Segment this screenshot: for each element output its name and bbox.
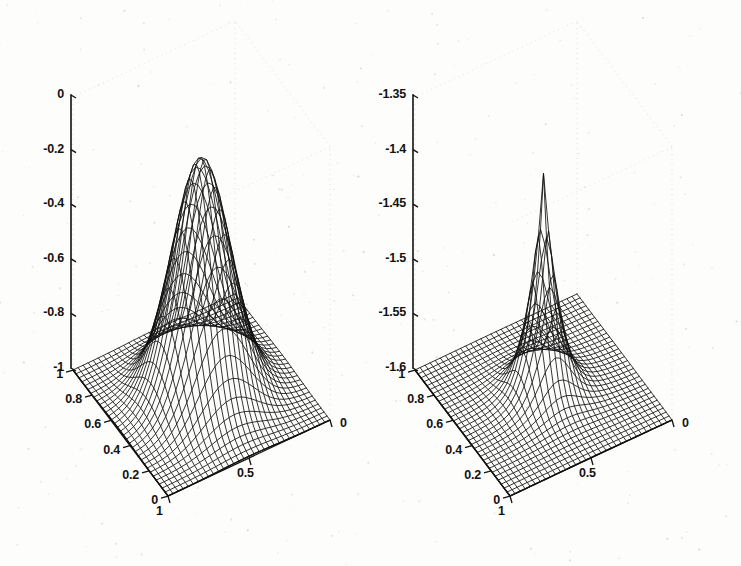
y-tick-label: 0 (468, 494, 500, 507)
right-surface-plot: -1.35-1.4-1.45-1.5-1.55-1.610.80.60.40.2… (371, 0, 741, 566)
z-tick-label: -0.2 (9, 143, 64, 156)
figure-container: 0-0.2-0.4-0.6-0.8-110.80.60.40.2010.50 -… (0, 0, 741, 566)
z-tick-label: -0.6 (9, 252, 64, 265)
x-tick-label: 1 (498, 505, 505, 518)
y-tick-label: 0.8 (50, 393, 82, 406)
z-tick-label: -0.4 (9, 197, 64, 210)
y-tick-label: 0.4 (88, 444, 120, 457)
y-tick-label: 1 (31, 368, 63, 381)
y-tick-label: 0.8 (392, 393, 424, 406)
z-tick-label: -1.5 (351, 252, 406, 265)
left-surface-plot: 0-0.2-0.4-0.6-0.8-110.80.60.40.2010.50 (0, 0, 370, 566)
y-tick-label: 0.2 (107, 469, 139, 482)
z-tick-label: 0 (9, 88, 64, 101)
z-tick-label: -1.35 (351, 88, 406, 101)
x-tick-label: 0 (340, 417, 347, 430)
y-tick-label: 0.4 (430, 444, 462, 457)
y-tick-label: 0.6 (411, 418, 443, 431)
x-tick-label: 0.5 (237, 467, 254, 480)
x-tick-label: 0 (682, 417, 689, 430)
x-tick-label: 0.5 (579, 467, 596, 480)
y-tick-label: 1 (373, 368, 405, 381)
left-mesh-canvas (0, 0, 370, 566)
y-tick-label: 0.2 (449, 469, 481, 482)
z-tick-label: -1.55 (351, 306, 406, 319)
right-mesh-canvas (371, 0, 741, 566)
z-tick-label: -0.8 (9, 306, 64, 319)
z-tick-label: -1.4 (351, 143, 406, 156)
y-tick-label: 0.6 (69, 418, 101, 431)
x-tick-label: 1 (156, 505, 163, 518)
z-tick-label: -1.45 (351, 197, 406, 210)
y-tick-label: 0 (126, 494, 158, 507)
